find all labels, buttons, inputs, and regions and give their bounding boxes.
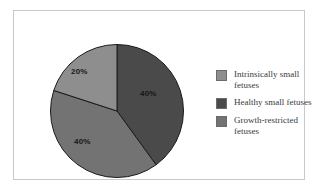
chart-legend: Intrinsically small fetuses Healthy smal…: [216, 69, 318, 143]
legend-item-intrinsically-small-fetuses: Intrinsically small fetuses: [216, 69, 318, 91]
legend-swatch-icon-healthy-small-fetuses: [216, 98, 227, 109]
legend-label-growth-restricted-fetuses: Growth-restricted fetuses: [234, 115, 316, 137]
slice-label-intrinsically-small-fetuses: 20%: [71, 67, 88, 76]
pie-plot-area: [50, 44, 184, 178]
pie-slice-group: [50, 44, 183, 177]
legend-label-intrinsically-small-fetuses: Intrinsically small fetuses: [234, 69, 316, 91]
legend-swatch-icon-growth-restricted-fetuses: [216, 116, 227, 127]
legend-label-healthy-small-fetuses: Healthy small fetuses: [234, 97, 311, 108]
pie-chart-figure: 40% 40% 20% Intrinsically small fetuses …: [0, 0, 319, 194]
legend-swatch-icon-intrinsically-small-fetuses: [216, 70, 227, 81]
slice-label-growth-restricted-fetuses: 40%: [74, 137, 91, 146]
chart-frame: 40% 40% 20% Intrinsically small fetuses …: [13, 10, 305, 180]
legend-item-healthy-small-fetuses: Healthy small fetuses: [216, 97, 318, 109]
legend-item-growth-restricted-fetuses: Growth-restricted fetuses: [216, 115, 318, 137]
pie-svg: [50, 44, 184, 178]
slice-label-healthy-small-fetuses: 40%: [140, 89, 157, 98]
